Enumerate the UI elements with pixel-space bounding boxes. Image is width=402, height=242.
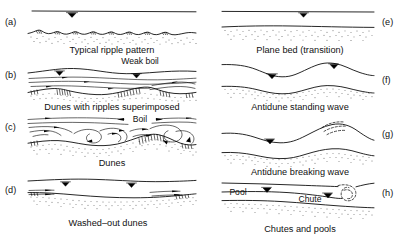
panel-h-label: (h) (382, 188, 393, 198)
water-level-symbol (132, 74, 142, 79)
panel-a: (a) (5, 11, 196, 55)
panel-b-water-surface (28, 68, 196, 73)
panel-d: (d) (5, 179, 196, 228)
bedform-sequence-figure: (a) (0, 0, 402, 242)
panel-a-bed-profile (28, 30, 196, 35)
panel-d-flow-arrows (45, 189, 181, 195)
weak-boil-label: Weak boil (121, 56, 159, 66)
water-level-symbol (55, 71, 65, 76)
panel-h-water-surface-downstream (356, 183, 374, 187)
panel-a-label: (a) (5, 17, 16, 27)
panel-g-sand-stipple (225, 153, 373, 167)
panel-e-caption: Plane bed (transition) (256, 45, 343, 55)
panel-f-sand-stipple (225, 89, 373, 102)
panel-d-label: (d) (5, 185, 16, 195)
panel-c-bed-profile (28, 134, 196, 145)
panel-g: (g) (222, 122, 393, 177)
panel-h: (h) Pool Chute (222, 183, 393, 234)
panel-b-sand-stipple (31, 93, 197, 102)
water-level-symbol (299, 13, 309, 17)
panel-h-sand-stipple (225, 203, 373, 219)
panel-g-label: (g) (382, 129, 393, 139)
pool-label: Pool (229, 187, 246, 197)
panel-b-cross-lamination (31, 89, 193, 98)
panel-a-caption: Typical ripple pattern (70, 45, 155, 55)
water-level-symbol (265, 139, 275, 144)
panel-b-bed-profile (28, 87, 196, 95)
water-level-symbol (127, 183, 137, 188)
panel-c-caption: Dunes (99, 158, 126, 168)
panel-a-sand-stipple (31, 36, 197, 44)
water-level-symbol (67, 13, 78, 18)
panel-g-breaking-spray (322, 122, 346, 135)
panel-b-label: (b) (5, 70, 16, 80)
panel-e-label: (e) (382, 17, 393, 27)
panel-e-sand-stipple (225, 30, 373, 42)
panel-g-bed-profile (222, 149, 374, 159)
panel-f-water-surface (222, 63, 374, 77)
panel-d-water-surface (28, 179, 196, 182)
panel-c-label: (c) (5, 122, 16, 132)
water-level-symbol (329, 64, 339, 69)
water-level-symbol (61, 182, 71, 187)
panel-h-caption: Chutes and pools (264, 224, 336, 234)
panel-b-caption: Dunes with ripples superimposed (44, 102, 179, 112)
panel-b: (b) Weak boil (5, 56, 196, 112)
panel-a-water-surface (32, 11, 196, 12)
panel-b-flow-lines (29, 77, 196, 89)
chute-label: Chute (299, 194, 322, 204)
panel-e-water-surface (222, 11, 374, 12)
panel-f: (f) (222, 63, 391, 112)
panel-g-water-surface (222, 124, 374, 143)
panel-c-surface-lines (28, 118, 196, 125)
panel-e-bed-profile (222, 26, 374, 28)
panel-f-caption: Antidune standing wave (251, 102, 349, 112)
boil-label: Boil (133, 114, 147, 124)
panel-d-sand-stipple (31, 197, 197, 210)
panel-f-label: (f) (382, 75, 391, 85)
panel-e: (e) (222, 11, 393, 55)
panel-f-bed-profile (222, 86, 374, 94)
panel-d-caption: Washed–out dunes (69, 218, 148, 228)
panel-c: (c) Boil (5, 114, 196, 168)
panel-g-caption: Antidune breaking wave (251, 167, 349, 177)
